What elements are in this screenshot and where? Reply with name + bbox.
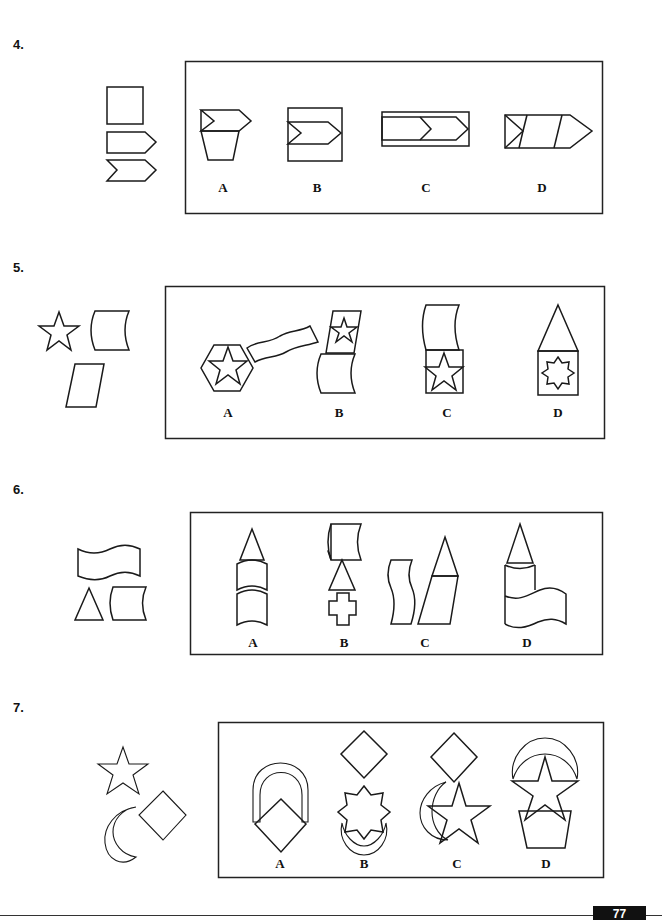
pentagon-arrow-icon (107, 132, 156, 153)
option-label-a: A (218, 180, 228, 195)
star-icon (39, 312, 79, 350)
option-label-d: D (553, 405, 562, 420)
q5-option-b[interactable]: B (317, 311, 361, 420)
figure-canvas: A B C D A B C (0, 0, 662, 920)
wavy-flag-icon (78, 545, 140, 580)
option-label-d: D (537, 180, 546, 195)
option-label-d: D (522, 635, 531, 650)
q7-option-b[interactable]: B (338, 731, 390, 871)
concave-rectangle-icon (91, 311, 129, 350)
q7-option-c[interactable]: C (420, 733, 490, 871)
q4-option-d[interactable]: D (505, 115, 592, 195)
option-label-b: B (340, 635, 349, 650)
footer-rule (0, 915, 662, 916)
option-label-a: A (223, 405, 233, 420)
q6-options-box (191, 513, 603, 655)
diamond-icon (139, 791, 186, 840)
option-label-b: B (335, 405, 344, 420)
q6-option-c[interactable]: C (388, 537, 458, 650)
q4-option-a[interactable]: A (201, 110, 251, 195)
q6-given-shapes (75, 545, 146, 620)
square-icon (107, 87, 143, 124)
crescent-moon-icon (105, 807, 136, 862)
option-label-b: B (360, 856, 369, 871)
q5-given-shapes (39, 311, 129, 407)
option-label-a: A (248, 635, 258, 650)
q4-option-b[interactable]: B (288, 108, 342, 195)
q5-option-a[interactable]: A (201, 326, 318, 420)
q5-option-c[interactable]: C (423, 305, 464, 420)
star-icon (98, 747, 148, 794)
option-label-b: B (313, 180, 322, 195)
option-label-d: D (541, 856, 550, 871)
q4-given-shapes (107, 87, 156, 181)
q4-option-c[interactable]: C (382, 112, 469, 195)
concave-rectangle-icon (110, 587, 146, 620)
q6-option-d[interactable]: D (505, 524, 566, 650)
option-label-a: A (275, 856, 285, 871)
option-label-c: C (442, 405, 451, 420)
chevron-arrow-icon (107, 160, 156, 181)
q7-option-d[interactable]: D (512, 738, 578, 871)
page-number-badge: 77 (593, 906, 646, 920)
option-label-c: C (421, 180, 430, 195)
triangle-icon (75, 588, 103, 620)
q6-option-a[interactable]: A (237, 529, 267, 650)
option-label-c: C (452, 856, 461, 871)
q6-option-b[interactable]: B (328, 524, 361, 650)
option-label-c: C (420, 635, 429, 650)
q7-given-shapes (98, 747, 186, 862)
q7-options-box (219, 723, 604, 878)
parallelogram-icon (66, 364, 104, 407)
q7-option-a[interactable]: A (253, 763, 308, 871)
q5-option-d[interactable]: D (538, 305, 578, 420)
